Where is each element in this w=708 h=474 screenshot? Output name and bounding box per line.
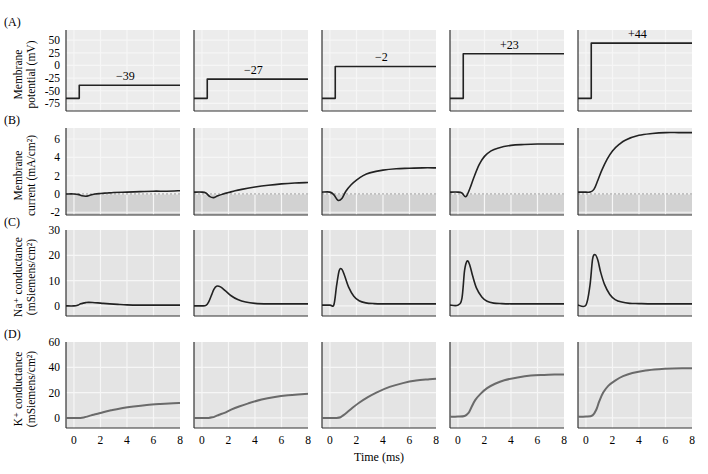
- panel-b-5: [578, 128, 692, 215]
- x-tick-label: 4: [124, 434, 130, 446]
- row-b: (B)Membranecurrent (mA/cm²)6420-2: [4, 113, 692, 218]
- y-tick-label: 40: [49, 361, 61, 373]
- y-tick-label: 20: [49, 249, 61, 261]
- panel-a-3: −2: [322, 30, 436, 111]
- voltage-step-label: −2: [375, 50, 388, 64]
- x-tick-label: 4: [380, 434, 386, 446]
- y-tick-label: 25: [49, 47, 61, 59]
- panel-c-1: [66, 230, 180, 316]
- x-tick-label: 2: [610, 434, 616, 446]
- y-tick-label: 60: [49, 336, 61, 348]
- y-tick-label: -25: [45, 72, 61, 84]
- panel-c-2: [194, 230, 308, 316]
- y-tick-label: -2: [50, 206, 60, 218]
- y-tick-label: 0: [54, 412, 60, 424]
- x-tick-label: 0: [71, 434, 77, 446]
- panel-d-1: 02468: [66, 342, 183, 446]
- x-tick-label: 8: [689, 434, 695, 446]
- panel-d-3: 02468: [322, 342, 439, 446]
- row-a: (A)Membranepotential (mV)50250-25-50-75−…: [4, 15, 692, 111]
- panel-b-4: [450, 128, 564, 215]
- panel-b-2: [194, 128, 308, 215]
- x-axis-label: Time (ms): [354, 450, 404, 464]
- y-axis-label: Membranecurrent (mA/cm²): [12, 135, 38, 216]
- x-tick-label: 0: [455, 434, 461, 446]
- x-tick-label: 8: [433, 434, 439, 446]
- y-tick-label: 0: [54, 188, 60, 200]
- voltage-step-label: −27: [244, 63, 263, 77]
- panel-a-4: +23: [450, 30, 564, 111]
- row-c: (C)Na⁺ conductance(mSiemens/cm²)3020100: [4, 215, 692, 317]
- panel-b-1: [66, 128, 180, 215]
- x-tick-label: 2: [354, 434, 360, 446]
- voltage-step-label: +23: [500, 38, 519, 52]
- x-tick-label: 4: [636, 434, 642, 446]
- panel-label: (C): [4, 215, 20, 229]
- x-tick-label: 6: [535, 434, 541, 446]
- x-tick-label: 2: [226, 434, 232, 446]
- y-axis-label: K⁺ conductance(mSiemens/cm²): [12, 351, 38, 427]
- y-tick-label: 6: [54, 133, 60, 145]
- y-tick-label: 0: [54, 59, 60, 71]
- x-tick-label: 8: [177, 434, 183, 446]
- y-tick-label: 50: [49, 34, 61, 46]
- x-tick-label: 8: [305, 434, 311, 446]
- x-tick-label: 0: [327, 434, 333, 446]
- panel-c-3: [322, 230, 436, 316]
- y-tick-label: 30: [49, 224, 61, 236]
- x-tick-label: 6: [663, 434, 669, 446]
- panel-c-5: [578, 230, 692, 316]
- x-tick-label: 2: [482, 434, 488, 446]
- voltage-step-label: −39: [116, 69, 135, 83]
- y-axis-label: Membranepotential (mV): [12, 40, 38, 108]
- x-tick-label: 6: [279, 434, 285, 446]
- x-tick-label: 8: [561, 434, 567, 446]
- y-tick-label: -50: [45, 85, 61, 97]
- panel-d-2: 02468: [194, 342, 311, 446]
- panel-label: (B): [4, 113, 20, 127]
- y-axis-label: Na⁺ conductance(mSiemens/cm²): [12, 237, 38, 317]
- y-tick-label: 4: [54, 151, 60, 163]
- panel-c-4: [450, 230, 564, 316]
- row-d: (D)K⁺ conductance(mSiemens/cm²)604020002…: [4, 327, 695, 464]
- x-tick-label: 6: [151, 434, 157, 446]
- y-tick-label: 2: [54, 170, 60, 182]
- x-tick-label: 4: [508, 434, 514, 446]
- panel-d-4: 02468: [450, 342, 567, 446]
- panel-d-5: 02468: [578, 342, 695, 446]
- x-tick-label: 6: [407, 434, 413, 446]
- panel-label: (D): [4, 327, 21, 341]
- panel-a-1: −39: [66, 30, 180, 111]
- y-tick-label: 0: [54, 300, 60, 312]
- x-tick-label: 0: [199, 434, 205, 446]
- panel-a-5: +44: [578, 27, 692, 111]
- x-tick-label: 0: [583, 434, 589, 446]
- y-tick-label: 20: [49, 387, 61, 399]
- panel-label: (A): [4, 15, 21, 29]
- voltage-step-label: +44: [628, 27, 647, 41]
- y-tick-label: -75: [45, 97, 61, 109]
- figure: (A)Membranepotential (mV)50250-25-50-75−…: [0, 0, 708, 474]
- y-tick-label: 10: [49, 275, 61, 287]
- x-tick-label: 2: [98, 434, 104, 446]
- panel-b-3: [322, 128, 436, 215]
- x-tick-label: 4: [252, 434, 258, 446]
- panel-a-2: −27: [194, 30, 308, 111]
